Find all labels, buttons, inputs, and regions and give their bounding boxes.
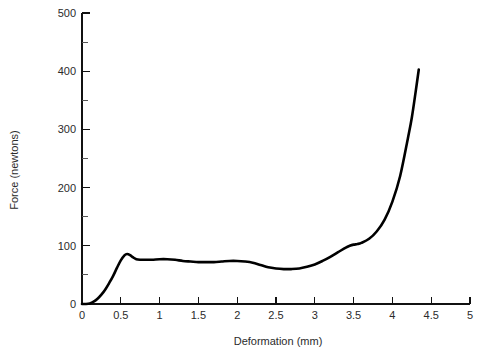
y-tick-label: 400 <box>58 65 76 77</box>
x-tick-label: 4.5 <box>424 309 439 321</box>
y-tick-label: 500 <box>58 7 76 19</box>
x-tick-label: 5 <box>467 309 473 321</box>
x-tick-label: 4 <box>389 309 395 321</box>
x-tick-label: 1.5 <box>191 309 206 321</box>
x-axis-ticks: 00.511.522.533.544.55 <box>79 297 473 321</box>
x-tick-label: 1 <box>157 309 163 321</box>
y-tick-label: 0 <box>70 298 76 310</box>
chart-canvas: 0100200300400500 00.511.522.533.544.55 D… <box>0 0 484 355</box>
y-tick-label: 200 <box>58 182 76 194</box>
force-deformation-chart: 0100200300400500 00.511.522.533.544.55 D… <box>0 0 484 355</box>
x-tick-label: 0.5 <box>113 309 128 321</box>
x-tick-label: 2.5 <box>268 309 283 321</box>
x-tick-label: 0 <box>79 309 85 321</box>
y-tick-label: 300 <box>58 123 76 135</box>
x-tick-label: 2 <box>234 309 240 321</box>
y-axis-title: Force (newtons) <box>8 130 20 209</box>
y-tick-label: 100 <box>58 240 76 252</box>
x-axis-title: Deformation (mm) <box>234 335 323 347</box>
data-series-line <box>82 69 419 304</box>
x-tick-label: 3 <box>312 309 318 321</box>
x-tick-label: 3.5 <box>346 309 361 321</box>
y-axis-minor-ticks <box>82 42 88 275</box>
